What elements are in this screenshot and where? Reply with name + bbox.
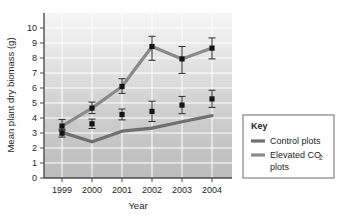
legend: Key Control plots Elevated CO 2 plots: [243, 115, 334, 178]
biomass-line-chart: 0 1 2 3 4 5 6 7 8 9 10 1999 2000 2001 20…: [0, 0, 340, 219]
y-tick-label: 0: [32, 173, 37, 183]
y-tick-label: 6: [32, 83, 37, 93]
y-tick-label: 5: [32, 98, 37, 108]
x-tick-label: 2004: [202, 185, 222, 195]
x-tick-label: 2003: [172, 185, 192, 195]
x-tick-label: 2002: [142, 185, 162, 195]
x-tick-label: 2000: [82, 185, 102, 195]
legend-title: Key: [251, 121, 268, 131]
chart-figure: 0 1 2 3 4 5 6 7 8 9 10 1999 2000 2001 20…: [0, 0, 340, 219]
y-tick-label: 7: [32, 68, 37, 78]
y-tick-label: 8: [32, 53, 37, 63]
y-tick-label: 9: [32, 38, 37, 48]
y-tick-label: 1: [32, 158, 37, 168]
legend-label-elevated-co2-subscript: 2: [319, 154, 323, 161]
x-tick-label: 2001: [112, 185, 132, 195]
x-tick-label: 1999: [52, 185, 72, 195]
y-tick-label: 3: [32, 128, 37, 138]
y-tick-label: 4: [32, 113, 37, 123]
legend-label-elevated-co2: Elevated CO: [270, 150, 321, 160]
legend-label-elevated-co2-line2: plots: [270, 162, 290, 172]
plot-background: [44, 13, 232, 178]
x-axis-title: Year: [128, 200, 147, 211]
y-axis-title: Mean plant dry biomass (g): [5, 37, 16, 152]
plot-area: [44, 13, 232, 178]
y-tick-label: 2: [32, 143, 37, 153]
legend-label-control: Control plots: [270, 136, 321, 146]
y-tick-label: 10: [27, 23, 37, 33]
